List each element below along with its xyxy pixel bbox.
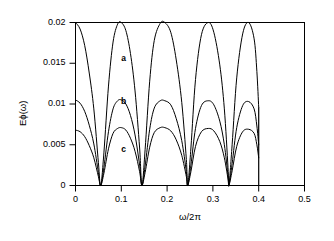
y-tick-label: 0.005 (0, 140, 66, 149)
x-tick-marks (76, 186, 305, 192)
curve-label-a: a (114, 54, 134, 63)
y-tick-label: 0.015 (0, 58, 66, 67)
y-tick-label: 0 (0, 181, 66, 190)
figure-container: Eϕ(ω) ω/2π 00.0050.010.0150.02 00.10.20.… (0, 0, 334, 241)
y-tick-marks (70, 23, 76, 186)
x-tick-label: 0.1 (101, 195, 141, 204)
curve-label-b: b (114, 97, 134, 106)
x-tick-label: 0.3 (193, 195, 233, 204)
chart-canvas (0, 0, 334, 241)
x-axis-label: ω/2π (150, 212, 230, 222)
x-tick-label: 0.4 (239, 195, 279, 204)
y-tick-label: 0.01 (0, 99, 66, 108)
curve-label-c: c (114, 145, 134, 154)
x-tick-label: 0 (56, 195, 96, 204)
y-tick-label: 0.02 (0, 18, 66, 27)
x-tick-label: 0.5 (285, 195, 325, 204)
x-tick-label: 0.2 (147, 195, 187, 204)
